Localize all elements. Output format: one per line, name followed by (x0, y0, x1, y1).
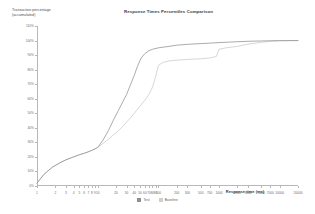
x-tick-label: 20000 (294, 191, 303, 195)
x-tick (158, 186, 159, 188)
legend-swatch-icon (137, 198, 141, 202)
x-tick-label: 20 (114, 191, 118, 195)
y-tick-label: 110% (26, 24, 34, 28)
legend-swatch-icon (159, 198, 163, 202)
legend-item[interactable]: Test (137, 198, 149, 202)
x-tick-label: 1 (36, 191, 38, 195)
y-tick-label: 100% (26, 39, 34, 43)
x-tick (140, 186, 141, 188)
x-axis-title: Response time (ms) (197, 189, 293, 194)
x-tick-label: 2 (54, 191, 56, 195)
legend-item[interactable]: Baseline (159, 198, 178, 202)
x-tick-label: 10 (96, 191, 100, 195)
x-tick-label: 4 (73, 191, 75, 195)
y-tick-label: 10% (27, 170, 33, 174)
x-tick (84, 186, 85, 188)
x-tick (74, 186, 75, 188)
x-tick (127, 186, 128, 188)
y-tick-label: 70% (27, 82, 33, 86)
x-tick (79, 186, 80, 188)
corner-mark-right (310, 203, 311, 206)
y-tick-label: 40% (27, 126, 33, 130)
x-tick (88, 186, 89, 188)
series-line-baseline (37, 41, 298, 184)
x-tick-label: 60 (143, 191, 147, 195)
legend-label: Baseline (165, 198, 178, 202)
legend-label: Test (143, 198, 149, 202)
x-tick (152, 186, 153, 188)
y-tick-label: 90% (27, 53, 33, 57)
y-tick-label: 20% (27, 155, 33, 159)
x-tick (98, 186, 99, 188)
y-tick-label: 80% (27, 68, 33, 72)
x-tick-label: 8 (91, 191, 93, 195)
x-tick (66, 186, 67, 188)
x-tick-label: 30 (125, 191, 129, 195)
x-tick-label: 40 (132, 191, 136, 195)
chart-legend: TestBaseline (0, 198, 315, 202)
x-tick (116, 186, 117, 188)
x-tick (134, 186, 135, 188)
x-tick (298, 186, 299, 188)
x-tick-label: 100 (156, 191, 161, 195)
x-tick (55, 186, 56, 188)
x-tick-label: 5 (79, 191, 81, 195)
x-tick (95, 186, 96, 188)
y-tick-label: 30% (27, 141, 33, 145)
corner-mark-left (4, 203, 5, 206)
y-tick-label: 0% (29, 184, 34, 188)
x-tick (156, 186, 157, 188)
x-tick-label: 3 (65, 191, 67, 195)
x-tick-label: 300 (185, 191, 190, 195)
chart-canvas: Transaction percentage (accumulated) Res… (0, 0, 315, 214)
y-tick-label: 60% (27, 97, 33, 101)
series-lines (37, 26, 298, 186)
x-tick (177, 186, 178, 188)
x-tick-label: 7 (87, 191, 89, 195)
x-tick (145, 186, 146, 188)
x-tick (37, 186, 38, 188)
plot-area: 0%10%20%30%40%50%60%70%80%90%100%110% 12… (37, 26, 298, 186)
x-tick-label: 50 (138, 191, 142, 195)
chart-title: Response Times Percentiles Comparison (0, 9, 315, 14)
x-tick (149, 186, 150, 188)
x-tick-label: 200 (174, 191, 179, 195)
y-tick-label: 50% (27, 112, 33, 116)
series-line-test (37, 41, 298, 184)
x-tick (92, 186, 93, 188)
x-tick-label: 6 (83, 191, 85, 195)
x-tick (187, 186, 188, 188)
